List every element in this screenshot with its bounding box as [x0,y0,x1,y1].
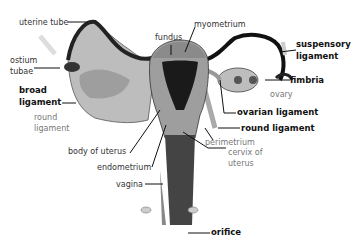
label-ostium-tubae-line2: tubae [10,67,33,76]
label-orifice: orifice [211,228,241,237]
label-vagina: vagina [116,180,143,189]
label-round-ligament-right: round ligament [241,124,315,133]
label-myometrium: myometrium [194,20,246,29]
label-fundus: fundus [155,33,182,42]
label-ovarian-ligament: ovarian ligament [237,108,318,117]
label-broad-ligament-line2: ligament [19,98,61,107]
label-broad-ligament-line1: broad [19,86,47,95]
label-cervix-line2: uterus [228,159,254,168]
label-ovary: ovary [270,90,293,99]
label-round-ligament-left-line2: ligament [34,124,69,133]
label-endometrium: endometrium [97,163,151,172]
label-fimbria: fimbria [290,76,324,85]
label-cervix-line1: cervix of [228,148,263,157]
label-round-ligament-left-line1: round [34,113,57,122]
label-ostium-tubae-line1: ostium [10,56,37,65]
label-body-of-uterus: body of uterus [68,147,126,156]
label-uterine-tube: uterine tube [19,18,68,27]
label-suspensory-ligament-line2: ligament [296,52,338,61]
label-suspensory-ligament-line1: suspensory [296,40,351,49]
label-perimetrium: perimetrium [205,138,255,147]
